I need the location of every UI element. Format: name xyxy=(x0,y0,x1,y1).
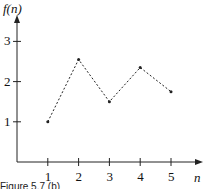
y-tick-label: 2 xyxy=(4,75,11,88)
figure-caption: Figure 5.7 (b) xyxy=(0,181,60,189)
x-tick-label: 5 xyxy=(168,170,175,183)
data-point xyxy=(77,58,80,61)
chart-canvas xyxy=(0,0,203,189)
y-axis-label: f(n) xyxy=(3,2,22,15)
y-tick-label: 3 xyxy=(4,34,11,47)
data-line xyxy=(48,59,171,121)
data-point xyxy=(170,90,173,93)
x-tick-label: 3 xyxy=(106,170,113,183)
x-axis-label: n xyxy=(194,171,201,184)
x-axis-arrow-icon xyxy=(195,159,203,165)
y-tick-label: 1 xyxy=(4,115,11,128)
x-tick-label: 2 xyxy=(76,170,83,183)
x-tick-label: 4 xyxy=(137,170,144,183)
data-point xyxy=(108,100,111,103)
data-point xyxy=(46,120,49,123)
y-axis-arrow-icon xyxy=(14,15,20,23)
data-point xyxy=(139,66,142,69)
